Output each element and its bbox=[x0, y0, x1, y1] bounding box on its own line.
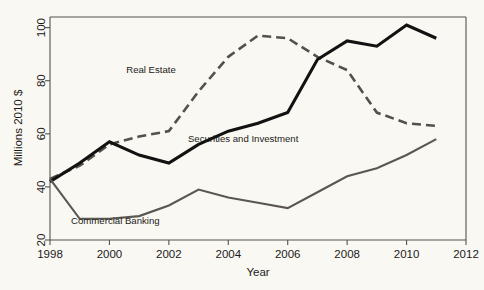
series-label: Real Estate bbox=[126, 64, 176, 75]
y-tick-label: 100 bbox=[35, 18, 47, 37]
series-label: Securities and Investment bbox=[188, 133, 299, 144]
y-tick-label: 60 bbox=[35, 127, 47, 140]
series-label: Commercial Banking bbox=[71, 215, 160, 226]
x-axis-title: Year bbox=[246, 266, 269, 278]
y-tick-label: 20 bbox=[35, 234, 47, 247]
line-chart: 20406080100 1998200020022004200620082010… bbox=[0, 0, 484, 290]
x-tick-label: 2010 bbox=[394, 248, 420, 260]
y-tick-label: 40 bbox=[35, 181, 47, 194]
chart-container: 20406080100 1998200020022004200620082010… bbox=[0, 0, 484, 290]
x-tick-label: 2008 bbox=[334, 248, 360, 260]
x-tick-label: 2002 bbox=[156, 248, 182, 260]
x-tick-label: 1998 bbox=[37, 248, 63, 260]
y-tick-label: 80 bbox=[35, 74, 47, 87]
x-tick-label: 2006 bbox=[275, 248, 301, 260]
y-axis-title: Millions 2010 $ bbox=[12, 89, 24, 166]
x-tick-label: 2012 bbox=[453, 248, 479, 260]
x-tick-label: 2004 bbox=[215, 248, 241, 260]
x-tick-label: 2000 bbox=[97, 248, 123, 260]
chart-background bbox=[0, 0, 484, 290]
